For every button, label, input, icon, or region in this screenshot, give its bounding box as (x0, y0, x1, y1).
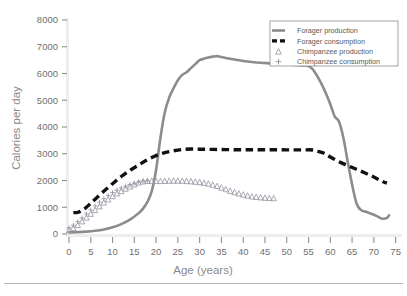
plus-marker (101, 196, 106, 201)
x-axis-ticks (69, 237, 396, 243)
calories-per-day-by-age-chart: 010002000300040005000600070008000 051015… (0, 0, 407, 296)
x-tick-label: 50 (281, 246, 292, 257)
x-axis-title: Age (years) (173, 264, 233, 276)
triangle-marker (210, 182, 215, 187)
x-tick-label: 65 (347, 246, 358, 257)
y-tick-label: 8000 (37, 14, 58, 25)
legend-label: Chimpanzee consumption (297, 57, 380, 66)
y-axis-title: Calories per day (10, 86, 22, 170)
plus-marker (93, 204, 98, 209)
x-tick-label: 25 (173, 246, 184, 257)
chart-series-layer (66, 56, 389, 233)
plus-marker (97, 200, 102, 205)
y-tick-label: 5000 (37, 95, 58, 106)
plus-marker (88, 208, 93, 213)
plus-marker (119, 186, 124, 191)
x-tick-label: 30 (194, 246, 205, 257)
y-tick-label: 6000 (37, 68, 58, 79)
triangle-marker (206, 181, 211, 186)
y-tick-label: 1000 (37, 202, 58, 213)
y-axis-tick-labels: 010002000300040005000600070008000 (37, 14, 58, 239)
plus-marker (123, 184, 128, 189)
series-forager-production (69, 56, 389, 232)
plus-marker (110, 190, 115, 195)
x-axis-line (66, 234, 402, 237)
x-tick-label: 60 (325, 246, 336, 257)
chart-legend: Forager productionForager consumptionChi… (270, 21, 398, 66)
line-path (69, 56, 389, 232)
triangle-marker (201, 180, 206, 185)
plus-marker (106, 193, 111, 198)
y-tick-label: 4000 (37, 121, 58, 132)
series-chimpanzee-production (66, 178, 276, 233)
x-tick-label: 75 (390, 246, 401, 257)
y-tick-label: 3000 (37, 148, 58, 159)
line-path (73, 149, 387, 213)
legend-label: Chimpanzee production (297, 47, 373, 56)
y-tick-label: 0 (53, 228, 58, 239)
x-axis-tick-labels: 051015202530354045505560657075 (66, 246, 401, 257)
x-tick-label: 0 (66, 246, 71, 257)
x-tick-label: 70 (369, 246, 380, 257)
x-tick-label: 45 (260, 246, 271, 257)
x-tick-label: 5 (88, 246, 93, 257)
y-tick-label: 2000 (37, 175, 58, 186)
triangle-marker (271, 195, 276, 200)
x-tick-label: 15 (129, 246, 140, 257)
y-tick-label: 7000 (37, 41, 58, 52)
x-tick-label: 55 (303, 246, 314, 257)
x-tick-label: 10 (107, 246, 118, 257)
plus-marker (115, 188, 120, 193)
chart-figure: 010002000300040005000600070008000 051015… (0, 0, 407, 296)
triangle-marker (241, 192, 246, 197)
x-tick-label: 40 (238, 246, 249, 257)
legend-label: Forager production (297, 26, 358, 35)
series-forager-consumption (73, 149, 387, 213)
x-tick-label: 20 (151, 246, 162, 257)
triangle-marker (245, 193, 250, 198)
x-tick-label: 35 (216, 246, 227, 257)
legend-label: Forager consumption (297, 37, 365, 46)
series-chimpanzee-consumption (67, 178, 150, 230)
triangle-marker (197, 179, 202, 184)
footer-divider (4, 283, 403, 284)
